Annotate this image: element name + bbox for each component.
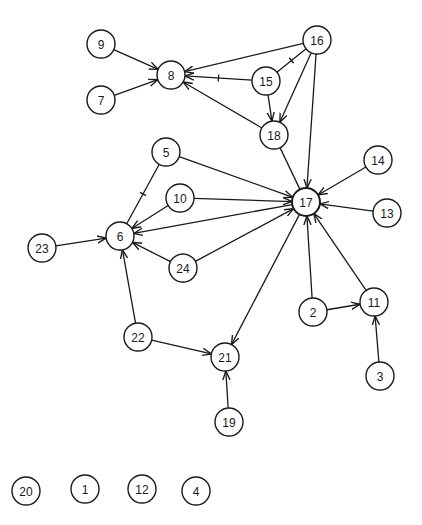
edge-10-to-6 bbox=[132, 205, 168, 228]
edge-13-to-17 bbox=[320, 204, 373, 211]
node-3: 3 bbox=[366, 362, 394, 390]
edge-2-to-17 bbox=[307, 216, 312, 298]
edge-22-to-6 bbox=[122, 250, 135, 323]
node-9: 9 bbox=[87, 30, 115, 58]
edge-11-to-17 bbox=[314, 214, 366, 291]
node-label: 17 bbox=[299, 196, 313, 210]
edge-24-to-6 bbox=[132, 242, 170, 261]
node-label: 7 bbox=[98, 94, 105, 108]
edge-14-to-17 bbox=[318, 167, 366, 195]
node-22: 22 bbox=[124, 323, 152, 351]
edge-17-to-21 bbox=[231, 214, 299, 344]
node-label: 22 bbox=[131, 331, 145, 345]
node-17: 17 bbox=[292, 188, 320, 216]
node-label: 8 bbox=[168, 69, 175, 83]
node-14: 14 bbox=[364, 146, 392, 174]
edge-10-to-17 bbox=[194, 198, 292, 201]
node-label: 21 bbox=[218, 351, 232, 365]
edge-16-to-17 bbox=[307, 54, 316, 188]
edge-2-to-11 bbox=[327, 304, 360, 309]
node-label: 19 bbox=[222, 416, 236, 430]
node-21: 21 bbox=[211, 343, 239, 371]
edge-15-to-18 bbox=[268, 95, 272, 121]
node-label: 24 bbox=[176, 262, 190, 276]
node-label: 23 bbox=[35, 242, 49, 256]
edge-16-to-8 bbox=[185, 43, 304, 71]
node-label: 5 bbox=[163, 146, 170, 160]
edge-23-to-6 bbox=[56, 238, 106, 246]
node-label: 13 bbox=[380, 207, 394, 221]
edge-16-to-18 bbox=[280, 53, 311, 122]
node-label: 14 bbox=[371, 154, 385, 168]
node-20: 20 bbox=[12, 477, 40, 505]
node-11: 11 bbox=[360, 288, 388, 316]
node-23: 23 bbox=[28, 234, 56, 262]
node-6: 6 bbox=[106, 222, 134, 250]
node-12: 12 bbox=[128, 475, 156, 503]
node-7: 7 bbox=[87, 86, 115, 114]
edge-7-to-8 bbox=[114, 80, 158, 96]
node-label: 12 bbox=[135, 483, 149, 497]
node-label: 2 bbox=[310, 306, 317, 320]
node-18: 18 bbox=[260, 121, 288, 149]
node-24: 24 bbox=[169, 254, 197, 282]
node-19: 19 bbox=[215, 408, 243, 436]
nodes-layer: 987161518510171413236242112221319201124 bbox=[12, 26, 401, 505]
node-label: 1 bbox=[82, 483, 89, 497]
node-2: 2 bbox=[299, 298, 327, 326]
edge-3-to-11 bbox=[375, 316, 379, 362]
node-10: 10 bbox=[166, 184, 194, 212]
edge-5-to-17 bbox=[179, 157, 293, 198]
node-label: 3 bbox=[377, 370, 384, 384]
node-label: 18 bbox=[267, 129, 281, 143]
node-label: 9 bbox=[98, 38, 105, 52]
node-1: 1 bbox=[71, 475, 99, 503]
node-4: 4 bbox=[182, 477, 210, 505]
edge-19-to-21 bbox=[226, 371, 228, 408]
node-13: 13 bbox=[373, 199, 401, 227]
edge-9-to-8 bbox=[114, 50, 158, 70]
node-label: 15 bbox=[259, 75, 273, 89]
node-label: 16 bbox=[310, 34, 324, 48]
node-label: 6 bbox=[117, 230, 124, 244]
node-label: 11 bbox=[368, 296, 381, 310]
edge-18-to-17 bbox=[280, 148, 300, 190]
node-15: 15 bbox=[252, 67, 280, 95]
node-label: 20 bbox=[19, 485, 33, 499]
node-label: 10 bbox=[173, 192, 187, 206]
graph-canvas: 987161518510171413236242112221319201124 bbox=[0, 0, 422, 525]
edge-17-to-6 bbox=[134, 205, 292, 234]
edge-18-to-8 bbox=[183, 82, 262, 128]
edge-22-to-21 bbox=[152, 340, 212, 354]
node-5: 5 bbox=[152, 138, 180, 166]
node-8: 8 bbox=[157, 61, 185, 89]
node-16: 16 bbox=[303, 26, 331, 54]
node-label: 4 bbox=[193, 485, 200, 499]
